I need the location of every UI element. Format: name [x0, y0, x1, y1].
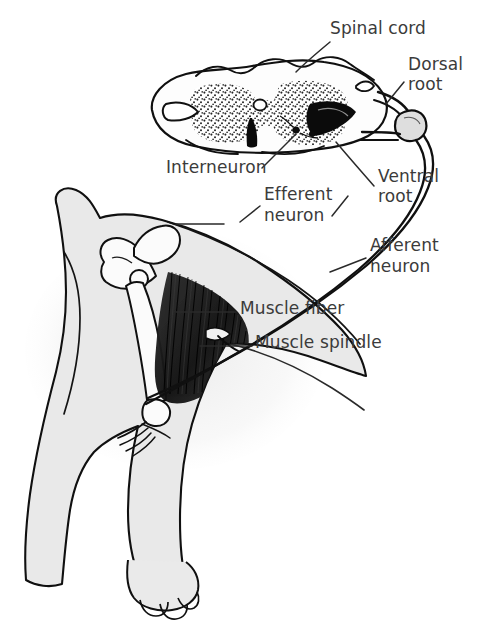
label-ventral-root-line2: root — [378, 186, 413, 206]
label-afferent-line1: Afferent — [370, 235, 439, 255]
label-spinal-cord: Spinal cord — [330, 18, 426, 38]
leader-efferent-hook — [332, 196, 348, 216]
dorsal-root-ganglion — [395, 110, 426, 141]
paw — [127, 560, 198, 619]
label-afferent-line2: neuron — [370, 256, 430, 276]
label-dorsal-root-line1: Dorsal — [408, 54, 463, 74]
paw-pad — [127, 560, 198, 611]
label-efferent-line1: Efferent — [264, 184, 333, 204]
central-canal — [254, 100, 267, 111]
leader-efferent-tick — [240, 206, 260, 222]
label-muscle-spindle: Muscle spindle — [255, 332, 382, 352]
reflex-arc-diagram: Spinal cord Dorsal root Interneuron Vent… — [0, 0, 499, 643]
interneuron-soma — [292, 126, 299, 133]
label-efferent-line2: neuron — [264, 205, 324, 225]
label-muscle-fiber: Muscle fiber — [240, 298, 344, 318]
motor-neuron-soma — [309, 131, 315, 137]
label-ventral-root-line1: Ventral — [378, 166, 439, 186]
animal-body — [25, 188, 366, 619]
leader-dorsal-root — [386, 82, 404, 104]
label-dorsal-root-line2: root — [408, 74, 443, 94]
label-interneuron: Interneuron — [166, 157, 267, 177]
leader-ventral-root — [336, 142, 374, 186]
root-attachment-bump — [356, 82, 374, 92]
diagram-canvas: Spinal cord Dorsal root Interneuron Vent… — [0, 0, 499, 643]
spinal-cord-section — [152, 57, 387, 154]
